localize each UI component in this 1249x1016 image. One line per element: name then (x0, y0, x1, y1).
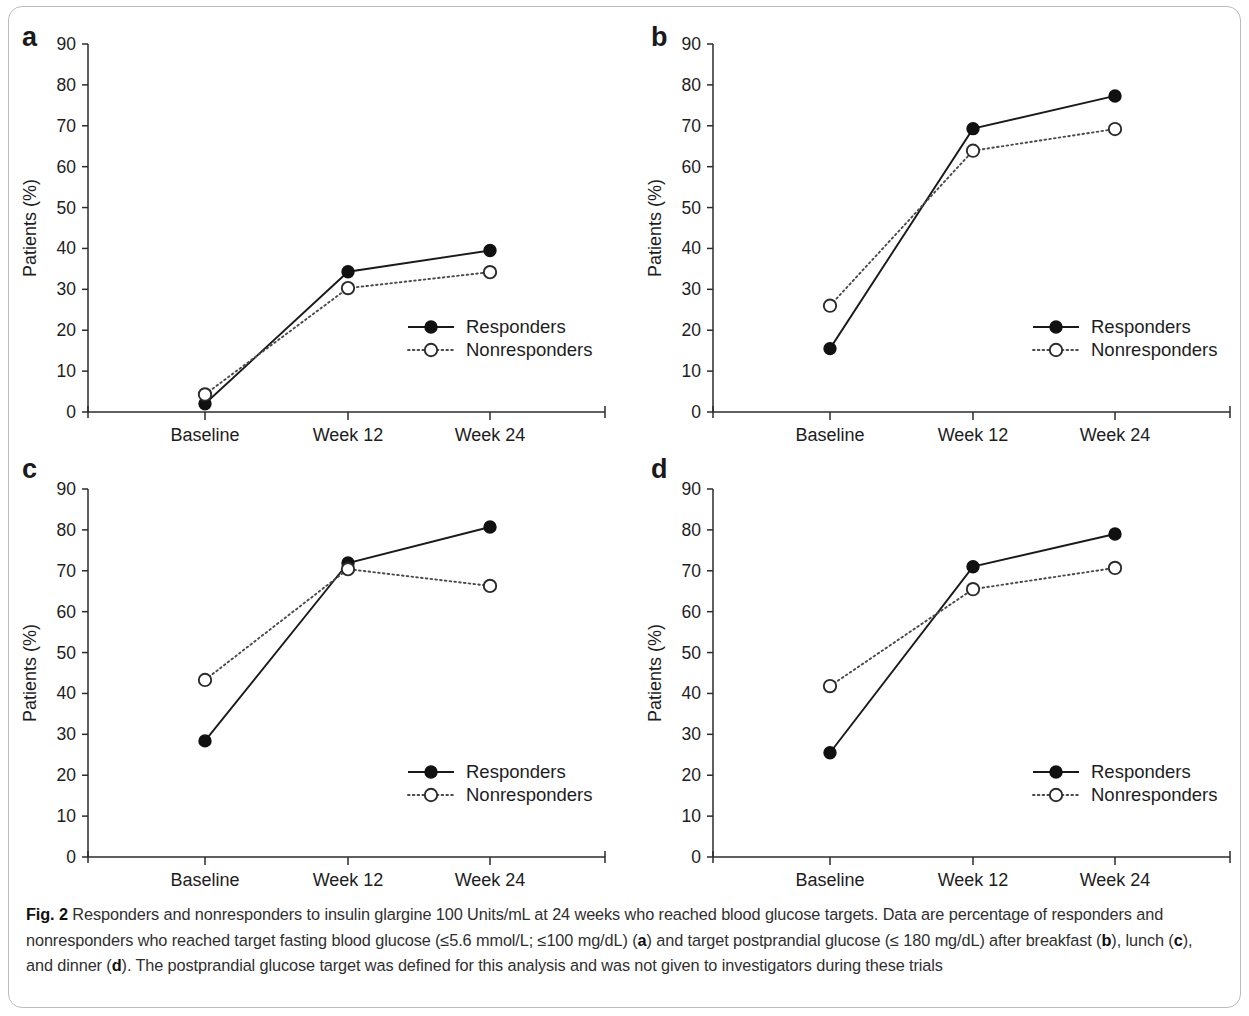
legend-label-responders: Responders (466, 761, 566, 782)
data-point-nonresponders-1 (967, 583, 979, 595)
y-tick-label: 30 (682, 724, 702, 744)
plot-area-c: 0102030405060708090Patients (%)BaselineW… (0, 445, 625, 890)
legend-label-nonresponders: Nonresponders (466, 784, 593, 805)
caption-text: ) and target postprandial glucose (≤ 180… (647, 931, 1102, 949)
caption-bold-token: a (638, 931, 647, 949)
panel-c: c0102030405060708090Patients (%)Baseline… (0, 445, 625, 890)
figure-caption: Fig. 2 Responders and nonresponders to i… (26, 902, 1221, 979)
x-category-label: Week 24 (1080, 870, 1151, 890)
y-tick-label: 0 (691, 402, 701, 422)
y-tick-label: 60 (682, 157, 702, 177)
plot-area-d: 0102030405060708090Patients (%)BaselineW… (625, 445, 1249, 890)
y-tick-label: 90 (57, 479, 77, 499)
y-tick-label: 70 (682, 561, 702, 581)
y-tick-label: 70 (682, 116, 702, 136)
y-tick-label: 30 (57, 279, 77, 299)
y-tick-label: 20 (682, 765, 702, 785)
y-axis-title: Patients (%) (20, 179, 40, 277)
data-point-responders-1 (967, 123, 979, 135)
y-tick-label: 60 (57, 602, 77, 622)
data-point-responders-0 (199, 735, 211, 747)
legend-label-responders: Responders (466, 316, 566, 337)
y-tick-label: 0 (66, 402, 76, 422)
y-tick-label: 10 (682, 806, 702, 826)
y-tick-label: 80 (682, 520, 702, 540)
y-tick-label: 10 (682, 361, 702, 381)
y-axis-title: Patients (%) (645, 624, 665, 722)
legend-swatch-marker-nonresponders (425, 789, 437, 801)
legend-swatch-marker-responders (425, 321, 437, 333)
caption-bold-token: b (1101, 931, 1111, 949)
y-axis-title: Patients (%) (645, 179, 665, 277)
data-point-responders-1 (342, 266, 354, 278)
x-category-label: Week 12 (313, 425, 384, 445)
y-tick-label: 90 (682, 34, 702, 54)
data-point-nonresponders-0 (199, 388, 211, 400)
y-tick-label: 30 (57, 724, 77, 744)
y-tick-label: 70 (57, 116, 77, 136)
y-tick-label: 50 (682, 643, 702, 663)
y-tick-label: 60 (57, 157, 77, 177)
caption-text: ), lunch ( (1111, 931, 1173, 949)
legend-swatch-marker-nonresponders (1050, 789, 1062, 801)
y-tick-label: 80 (682, 75, 702, 95)
y-tick-label: 50 (57, 643, 77, 663)
y-tick-label: 50 (57, 198, 77, 218)
data-point-nonresponders-1 (967, 145, 979, 157)
legend-label-nonresponders: Nonresponders (1091, 784, 1218, 805)
y-tick-label: 20 (57, 765, 77, 785)
data-point-responders-2 (1109, 90, 1121, 102)
y-tick-label: 40 (682, 683, 702, 703)
series-line-nonresponders (205, 569, 490, 680)
data-point-nonresponders-0 (199, 674, 211, 686)
y-tick-label: 80 (57, 75, 77, 95)
x-category-label: Baseline (170, 870, 239, 890)
caption-bold-token: Fig. 2 (26, 905, 68, 923)
y-tick-label: 40 (57, 238, 77, 258)
y-tick-label: 80 (57, 520, 77, 540)
panel-a: a0102030405060708090Patients (%)Baseline… (0, 0, 625, 445)
legend-swatch-marker-nonresponders (1050, 344, 1062, 356)
data-point-responders-0 (824, 747, 836, 759)
panel-b: b0102030405060708090Patients (%)Baseline… (625, 0, 1249, 445)
data-point-responders-2 (484, 244, 496, 256)
caption-bold-token: c (1174, 931, 1183, 949)
data-point-nonresponders-2 (484, 266, 496, 278)
data-point-responders-2 (484, 521, 496, 533)
caption-bold-token: d (112, 956, 122, 974)
figure-container: a0102030405060708090Patients (%)Baseline… (0, 0, 1249, 1016)
data-point-nonresponders-0 (824, 680, 836, 692)
y-tick-label: 0 (691, 847, 701, 867)
x-category-label: Week 24 (455, 425, 526, 445)
y-axis-title: Patients (%) (20, 624, 40, 722)
x-category-label: Baseline (795, 425, 864, 445)
legend-swatch-marker-responders (425, 766, 437, 778)
plot-area-a: 0102030405060708090Patients (%)BaselineW… (0, 0, 625, 445)
legend-label-nonresponders: Nonresponders (466, 339, 593, 360)
y-tick-label: 40 (57, 683, 77, 703)
y-tick-label: 50 (682, 198, 702, 218)
legend-swatch-marker-responders (1050, 321, 1062, 333)
legend-label-nonresponders: Nonresponders (1091, 339, 1218, 360)
caption-text: ). The postprandial glucose target was d… (122, 956, 943, 974)
x-category-label: Week 24 (1080, 425, 1151, 445)
panel-d: d0102030405060708090Patients (%)Baseline… (625, 445, 1249, 890)
data-point-responders-0 (824, 343, 836, 355)
data-point-nonresponders-1 (342, 282, 354, 294)
y-tick-label: 90 (682, 479, 702, 499)
legend-swatch-marker-responders (1050, 766, 1062, 778)
y-tick-label: 90 (57, 34, 77, 54)
y-tick-label: 40 (682, 238, 702, 258)
legend-swatch-marker-nonresponders (425, 344, 437, 356)
panel-grid: a0102030405060708090Patients (%)Baseline… (0, 0, 1249, 890)
y-tick-label: 20 (57, 320, 77, 340)
data-point-nonresponders-0 (824, 299, 836, 311)
data-point-nonresponders-2 (484, 580, 496, 592)
x-category-label: Week 12 (938, 870, 1009, 890)
y-tick-label: 0 (66, 847, 76, 867)
x-category-label: Baseline (170, 425, 239, 445)
x-category-label: Week 12 (313, 870, 384, 890)
x-category-label: Baseline (795, 870, 864, 890)
y-tick-label: 70 (57, 561, 77, 581)
legend-label-responders: Responders (1091, 761, 1191, 782)
